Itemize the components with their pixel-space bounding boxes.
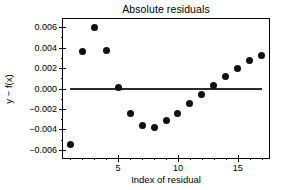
chart-title: Absolute residuals [62,3,270,15]
x-axis-tick-inner [178,155,179,158]
y-axis-minor-tick [61,58,63,59]
y-axis-tick-inner [63,68,66,69]
x-axis-minor-tick [202,158,203,160]
x-axis-minor-tick [70,158,71,160]
y-axis-tick-label: −0.002 [29,104,57,114]
x-axis-tick-label: 5 [116,163,121,173]
x-axis-minor-tick [190,158,191,160]
y-axis-tick-label: 0.000 [34,84,57,94]
x-axis-minor-tick [154,158,155,160]
x-axis-tick [118,158,119,162]
x-axis-tick-label: 10 [173,163,183,173]
x-axis-minor-tick [82,158,83,160]
zero-reference-line [70,88,262,90]
x-axis-minor-tick [250,158,251,160]
y-axis-tick-label: −0.006 [29,145,57,155]
data-point [79,48,86,55]
data-point [67,141,74,148]
x-axis-minor-tick [130,158,131,160]
y-axis-minor-tick [61,140,63,141]
y-axis-minor-tick [61,119,63,120]
y-axis-minor-tick [61,78,63,79]
plot-inner [63,19,269,158]
x-axis-minor-tick [214,158,215,160]
data-point [234,65,241,72]
data-point [186,100,193,107]
x-axis-tick-inner [118,155,119,158]
data-point [174,110,181,117]
y-axis-label: y − f(x) [3,74,14,103]
y-axis-tick-inner [63,48,66,49]
plot-area: 0.0060.0040.0020.000−0.002−0.004−0.00651… [62,18,270,159]
x-axis-minor-tick [106,158,107,160]
x-axis-minor-tick [262,158,263,160]
x-axis-minor-tick [142,158,143,160]
data-point [246,57,253,64]
data-point [163,117,170,124]
data-point [115,84,122,91]
data-point [127,110,134,117]
x-axis-tick-inner [238,155,239,158]
y-axis-tick-inner [63,27,66,28]
y-axis-tick-inner [63,89,66,90]
x-axis-tick [238,158,239,162]
y-axis-tick-label: −0.004 [29,124,57,134]
data-point [222,73,229,80]
chart-figure: Absolute residuals y − f(x) 0.0060.0040.… [0,0,287,190]
y-axis-tick-inner [63,129,66,130]
x-axis-minor-tick [226,158,227,160]
data-point [91,24,98,31]
data-point [151,124,158,131]
y-axis-minor-tick [61,37,63,38]
data-point [139,122,146,129]
y-axis-tick-label: 0.002 [34,63,57,73]
data-point [103,47,110,54]
y-axis-tick-label: 0.004 [34,43,57,53]
x-axis-minor-tick [94,158,95,160]
data-point [258,52,265,59]
y-axis-minor-tick [61,99,63,100]
x-axis-label: Index of residual [62,174,270,185]
y-axis-tick-inner [63,150,66,151]
y-axis-tick-label: 0.006 [34,22,57,32]
x-axis-minor-tick [166,158,167,160]
x-axis-tick [178,158,179,162]
y-axis-tick-inner [63,109,66,110]
data-point [198,91,205,98]
y-axis-label-container: y − f(x) [0,18,16,159]
x-axis-tick-label: 15 [233,163,243,173]
